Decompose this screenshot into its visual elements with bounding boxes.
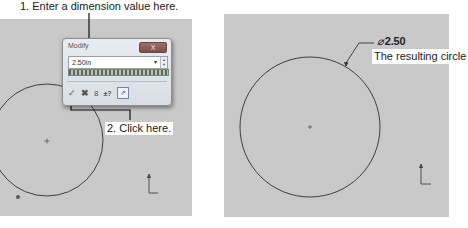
dialog-title: Modify bbox=[68, 42, 89, 49]
instruction-step-2: 2. Click here. bbox=[105, 122, 173, 135]
chevron-down-icon[interactable]: ▾ bbox=[154, 58, 157, 67]
close-button[interactable]: X bbox=[139, 42, 167, 53]
dimension-value-input[interactable] bbox=[69, 57, 154, 68]
dialog-toolbar: ✓ ✖ 8 ±? ⇗ bbox=[68, 87, 129, 99]
diameter-value: 2.50 bbox=[385, 35, 406, 47]
thumbwheel-slider[interactable] bbox=[68, 69, 169, 76]
sketch-canvas-after[interactable] bbox=[224, 14, 449, 217]
spin-down-icon[interactable]: ▼ bbox=[161, 62, 167, 67]
spin-stepper[interactable]: ▲ ▼ bbox=[160, 57, 167, 68]
value-field[interactable]: ▾ ▲ ▼ bbox=[68, 56, 168, 69]
ok-checkmark-button[interactable]: ✓ bbox=[68, 88, 76, 99]
diameter-icon: ⌀ bbox=[377, 35, 384, 47]
reverse-sense-button[interactable]: ±? bbox=[103, 88, 111, 99]
instruction-step-1: 1. Enter a dimension value here. bbox=[18, 0, 180, 13]
result-caption: The resulting circle bbox=[372, 49, 468, 64]
modify-dialog: Modify X ▾ ▲ ▼ ✓ ✖ 8 ±? ⇗ bbox=[62, 38, 172, 106]
rebuild-button[interactable]: 8 bbox=[94, 88, 98, 99]
diameter-dimension[interactable]: ⌀2.50 bbox=[377, 35, 405, 48]
cancel-x-button[interactable]: ✖ bbox=[81, 88, 89, 99]
mark-dimension-button[interactable]: ⇗ bbox=[117, 87, 129, 99]
divider bbox=[67, 81, 167, 82]
